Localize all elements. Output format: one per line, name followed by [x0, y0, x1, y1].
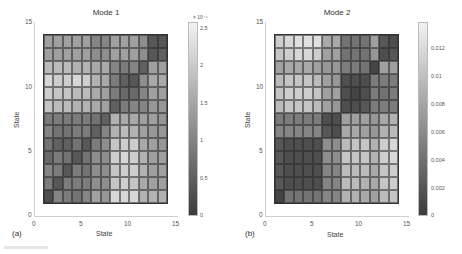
heatmap-cell [53, 190, 62, 203]
heatmap-cell [341, 138, 350, 151]
heatmap-cell [284, 35, 293, 48]
heatmap-cell [389, 164, 398, 177]
panel-label: (a) [12, 229, 22, 238]
heatmap-cell [120, 125, 129, 138]
heatmap-cell [322, 138, 331, 151]
heatmap-cell [91, 125, 100, 138]
heatmap-cell [53, 61, 62, 74]
y-tick: 0 [259, 211, 263, 218]
heatmap-cell [275, 177, 284, 190]
heatmap-cell [294, 100, 303, 113]
colorbar-tick: 0.5 [200, 175, 208, 181]
heatmap-cell [129, 74, 138, 87]
heatmap-cell [370, 87, 379, 100]
x-axis [34, 216, 178, 217]
heatmap-cell [322, 177, 331, 190]
heatmap-cell [44, 138, 53, 151]
heatmap-cell [313, 35, 322, 48]
heatmap-cell [379, 113, 388, 126]
heatmap-cell [332, 100, 341, 113]
heatmap-cell [341, 48, 350, 61]
chart-title: Mode 1 [34, 8, 178, 17]
heatmap-cell [72, 35, 81, 48]
heatmap-cell [313, 74, 322, 87]
heatmap-cell [303, 61, 312, 74]
heatmap-cell [370, 125, 379, 138]
heatmap-cell [313, 100, 322, 113]
heatmap-cell [139, 138, 148, 151]
heatmap-cell [322, 151, 331, 164]
heatmap-cell [148, 61, 157, 74]
heatmap-cell [332, 138, 341, 151]
heatmap-cell [351, 190, 360, 203]
heatmap-cell [129, 35, 138, 48]
heatmap-cell [275, 48, 284, 61]
heatmap-cell [341, 164, 350, 177]
heatmap-cell [44, 35, 53, 48]
heatmap-cell [389, 190, 398, 203]
heatmap-cell [284, 190, 293, 203]
heatmap-cell [284, 151, 293, 164]
heatmap-cell [63, 190, 72, 203]
heatmap-cell [275, 138, 284, 151]
heatmap-cell [360, 100, 369, 113]
heatmap-cell [294, 151, 303, 164]
heatmap-cell [129, 190, 138, 203]
heatmap-cell [139, 164, 148, 177]
heatmap-cell [351, 61, 360, 74]
heatmap-cell [284, 177, 293, 190]
heatmap-cell [53, 48, 62, 61]
x-tick: 15 [172, 220, 179, 227]
heatmap-cell [82, 190, 91, 203]
heatmap-cell [101, 164, 110, 177]
heatmap-cell [110, 138, 119, 151]
heatmap-cell [129, 164, 138, 177]
heatmap-cell [360, 87, 369, 100]
heatmap-cell [389, 100, 398, 113]
heatmap-cell [129, 138, 138, 151]
heatmap-cell [110, 100, 119, 113]
heatmap-cell [110, 74, 119, 87]
heatmap-cell [82, 74, 91, 87]
heatmap-cell [341, 87, 350, 100]
heatmap-cell [120, 61, 129, 74]
heatmap-cell [332, 151, 341, 164]
heatmap-cell [379, 74, 388, 87]
heatmap-cell [351, 100, 360, 113]
heatmap-cell [82, 125, 91, 138]
heatmap-cell [284, 113, 293, 126]
heatmap-cell [44, 100, 53, 113]
heatmap-cell [129, 125, 138, 138]
heatmap-cell [284, 61, 293, 74]
heatmap-cell [158, 125, 167, 138]
heatmap-cell [284, 125, 293, 138]
heatmap-cell [294, 177, 303, 190]
heatmap-cell [101, 100, 110, 113]
heatmap-cell [351, 48, 360, 61]
heatmap-cell [294, 138, 303, 151]
heatmap-cell [158, 48, 167, 61]
heatmap-cell [120, 100, 129, 113]
heatmap-cell [294, 164, 303, 177]
heatmap-cell [313, 48, 322, 61]
heatmap-cell [158, 74, 167, 87]
x-tick: 0 [263, 220, 267, 227]
heatmap-cell [53, 125, 62, 138]
heatmap-cell [110, 125, 119, 138]
heatmap-cell [313, 151, 322, 164]
heatmap-cell [72, 138, 81, 151]
chart-title: Mode 2 [265, 8, 409, 17]
heatmap-cell [110, 61, 119, 74]
heatmap-cell [110, 190, 119, 203]
colorbar-tick: 0.002 [431, 185, 445, 191]
heatmap-cell [91, 61, 100, 74]
colorbar-tick: 0.006 [431, 129, 445, 135]
heatmap-cell [91, 164, 100, 177]
heatmap-cell [120, 48, 129, 61]
heatmap-cell [389, 151, 398, 164]
heatmap-cell [379, 125, 388, 138]
heatmap-cell [82, 61, 91, 74]
y-tick: 0 [28, 211, 32, 218]
heatmap-cell [101, 48, 110, 61]
x-tick: 5 [79, 220, 83, 227]
